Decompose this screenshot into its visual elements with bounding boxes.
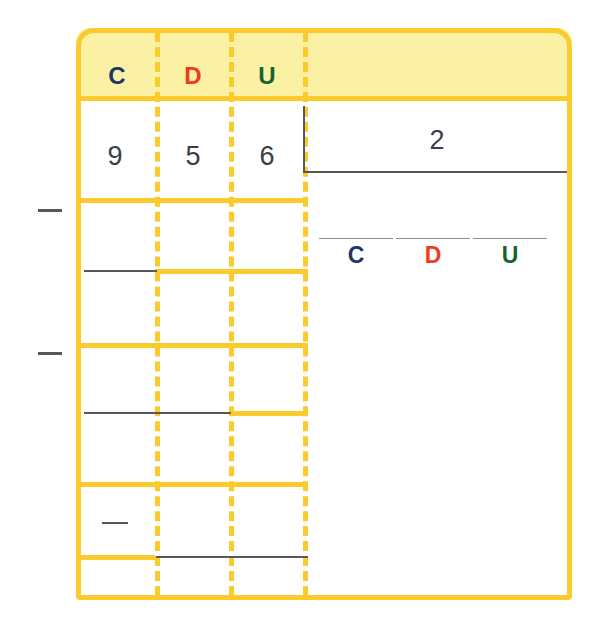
work-row-3-rule (229, 411, 308, 416)
column-divider-tens-units (229, 32, 234, 596)
header-bottom-rule (76, 96, 572, 101)
column-header-hundreds: C (78, 64, 156, 88)
answer-rule-hundreds (319, 238, 393, 239)
minus-sign-step-3 (102, 522, 128, 524)
division-worksheet: C D U 9 5 6 2 C D U (76, 28, 572, 600)
answer-rule-tens (396, 238, 470, 239)
dividend-bottom-rule (76, 198, 308, 203)
divisor-value: 2 (308, 127, 566, 154)
column-divider-hundreds-tens (155, 32, 160, 596)
answer-label-tens: D (396, 244, 470, 267)
column-header-tens: D (154, 64, 232, 88)
answer-slot-hundreds[interactable]: C (319, 238, 393, 267)
dividend-digit-tens: 5 (156, 143, 230, 170)
dividend-digit-hundreds: 9 (78, 143, 152, 170)
remainder-line-3 (156, 556, 308, 558)
work-row-2-rule (76, 343, 308, 348)
answer-slot-units[interactable]: U (473, 238, 547, 267)
work-row-5-rule (76, 555, 155, 560)
minus-sign-step-1 (38, 209, 62, 212)
remainder-line-2 (84, 412, 231, 414)
answer-rule-units (473, 238, 547, 239)
minus-sign-step-2 (38, 352, 62, 355)
answer-label-hundreds: C (319, 244, 393, 267)
work-row-4-rule (76, 482, 308, 487)
remainder-line-1 (84, 270, 157, 272)
answer-slot-tens[interactable]: D (396, 238, 470, 267)
division-bracket-vertical (303, 106, 305, 172)
division-bracket-horizontal (303, 171, 569, 173)
dividend-digit-units: 6 (230, 143, 304, 170)
worksheet-frame (76, 28, 572, 600)
answer-label-units: U (473, 244, 547, 267)
work-row-1-rule (155, 269, 308, 274)
column-header-units: U (228, 64, 306, 88)
